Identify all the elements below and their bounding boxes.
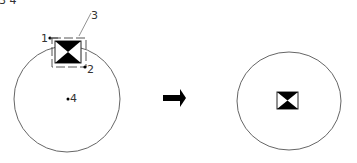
right-arrow-icon xyxy=(163,89,186,107)
label-2: 2 xyxy=(87,63,94,76)
bowtie-symbol-icon xyxy=(55,41,81,63)
label-1: 1 xyxy=(41,32,48,45)
label-3: 3 xyxy=(91,9,98,22)
bowtie-symbol-icon xyxy=(277,92,298,109)
right-diagram xyxy=(237,52,341,150)
label-4: 4 xyxy=(70,92,77,105)
left-diagram: 1 2 3 4 xyxy=(14,9,120,152)
leader-line-3 xyxy=(79,13,91,36)
clipped-header-text: 3 4 xyxy=(0,0,17,7)
diagram-canvas: 3 4 1 2 3 4 xyxy=(0,0,357,163)
